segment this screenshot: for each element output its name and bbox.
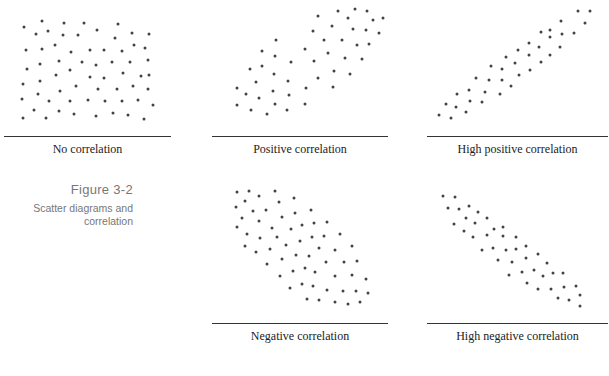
data-point [331, 25, 334, 28]
figure-caption-line-2: correlation [84, 215, 133, 227]
data-point [339, 233, 342, 236]
data-point [311, 236, 314, 239]
data-point [474, 222, 477, 225]
scatter-points-4 [442, 195, 582, 308]
data-point [477, 211, 480, 214]
data-point [148, 74, 151, 77]
data-point [131, 32, 134, 35]
data-point [305, 87, 308, 90]
data-point [347, 17, 350, 20]
data-point [317, 15, 320, 18]
data-point [366, 10, 369, 13]
data-point [559, 46, 562, 49]
data-point [341, 39, 344, 42]
data-point [540, 31, 543, 34]
data-point [334, 301, 337, 304]
data-point [244, 245, 247, 248]
data-point [304, 103, 307, 106]
data-point [274, 190, 277, 193]
data-point [236, 226, 239, 229]
data-point [147, 59, 150, 62]
data-point [562, 272, 565, 275]
data-point [269, 248, 272, 251]
data-point [147, 88, 150, 91]
data-point [279, 275, 282, 278]
data-point [281, 258, 284, 261]
data-point [549, 36, 552, 39]
data-point [521, 271, 524, 274]
data-point [83, 22, 86, 25]
data-point [515, 236, 518, 239]
data-point [501, 79, 504, 82]
data-point [314, 271, 317, 274]
data-point [493, 228, 496, 231]
data-point [275, 39, 278, 42]
data-point [22, 117, 25, 120]
data-point [525, 257, 528, 260]
data-point [517, 49, 520, 52]
data-point [236, 191, 239, 194]
data-point [568, 299, 571, 302]
data-point [23, 26, 26, 29]
data-point [148, 33, 151, 36]
data-point [21, 98, 24, 101]
data-point [365, 29, 368, 32]
data-point [537, 288, 540, 291]
data-point [276, 236, 279, 239]
data-point [304, 48, 307, 51]
data-point [378, 32, 381, 35]
data-point [33, 109, 36, 112]
data-point [537, 253, 540, 256]
data-point [546, 262, 549, 265]
data-point [75, 85, 78, 88]
data-point [306, 298, 309, 301]
data-point [63, 22, 66, 25]
data-point [299, 240, 302, 243]
data-point [41, 20, 44, 23]
data-point [281, 216, 284, 219]
data-point [575, 285, 578, 288]
data-point [465, 111, 468, 114]
data-point [288, 94, 291, 97]
data-point [549, 29, 552, 32]
data-point [301, 224, 304, 227]
data-point [549, 54, 552, 57]
data-point [286, 109, 289, 112]
panel-baseline [4, 136, 171, 137]
data-point [356, 44, 359, 47]
panel-label-high-negative-correlation: High negative correlation [427, 329, 608, 344]
data-point [273, 73, 276, 76]
data-point [337, 10, 340, 13]
data-point [112, 112, 115, 115]
data-point [129, 61, 132, 64]
data-point [55, 74, 58, 77]
data-point [59, 90, 62, 93]
data-point [492, 247, 495, 250]
data-point [37, 93, 40, 96]
data-point [368, 43, 371, 46]
data-point [236, 104, 239, 107]
data-point [481, 101, 484, 104]
data-point [505, 249, 508, 252]
data-point [259, 237, 262, 240]
data-point [351, 245, 354, 248]
data-point [294, 212, 297, 215]
data-point [278, 201, 281, 204]
panel-baseline [427, 323, 608, 324]
data-point [499, 93, 502, 96]
data-point [563, 286, 566, 289]
data-point [465, 217, 468, 220]
data-point [472, 236, 475, 239]
data-point [458, 208, 461, 211]
data-point [382, 17, 385, 20]
data-point [249, 68, 252, 71]
panel-baseline [212, 323, 388, 324]
data-point [486, 234, 489, 237]
data-point [39, 80, 42, 83]
data-point [261, 65, 264, 68]
data-point [69, 100, 72, 103]
data-point [502, 226, 505, 229]
data-point [304, 267, 307, 270]
data-point [266, 113, 269, 116]
scatter-points-3 [235, 190, 370, 306]
